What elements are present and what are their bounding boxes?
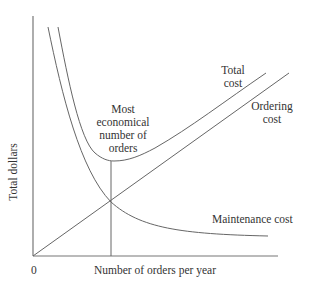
most-economical-annotation: Most economical number of orders (90, 103, 156, 155)
annotation-line-3: number of (90, 129, 156, 142)
ordering-cost-label: Ordering cost (249, 100, 295, 126)
origin-label: 0 (31, 264, 37, 277)
annotation-line-4: orders (90, 142, 156, 155)
total-cost-label: Total cost (218, 64, 248, 90)
ordering-cost-label-line-2: cost (249, 113, 295, 126)
ordering-cost-label-line-1: Ordering (249, 100, 295, 113)
y-axis-label: Total dollars (7, 143, 19, 201)
annotation-line-2: economical (90, 116, 156, 129)
x-axis-label: Number of orders per year (94, 264, 216, 277)
annotation-line-1: Most (90, 103, 156, 116)
maintenance-cost-label: Maintenance cost (212, 213, 293, 226)
total-cost-label-line-1: Total (218, 64, 248, 77)
total-cost-label-line-2: cost (218, 77, 248, 90)
maintenance-cost-curve (48, 27, 268, 236)
